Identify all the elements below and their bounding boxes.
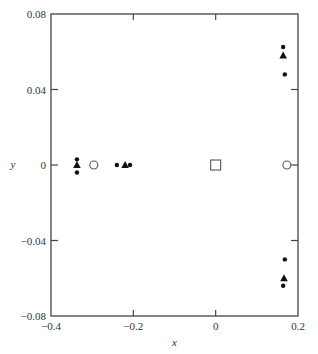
filled-triangle-marker <box>73 161 81 168</box>
x-tick-label: 0.2 <box>291 320 305 332</box>
x-tick-label: −0.2 <box>123 320 143 332</box>
filled-circle-marker <box>281 284 285 288</box>
open-circle-marker <box>283 161 291 169</box>
filled-circle-marker <box>128 163 132 167</box>
filled-circle-marker <box>75 170 79 174</box>
data-points <box>73 45 291 288</box>
filled-triangle-marker <box>279 52 287 59</box>
open-circle-marker <box>90 161 98 169</box>
filled-triangle-marker <box>280 274 288 281</box>
scatter-chart: −0.4−0.200.20.080.040−0.04−0.08 x y <box>0 0 318 354</box>
y-tick-label: 0.08 <box>27 8 47 20</box>
filled-circle-marker <box>115 163 119 167</box>
y-tick-label: −0.08 <box>21 310 47 322</box>
y-tick-label: 0.04 <box>27 84 47 96</box>
tick-labels: −0.4−0.200.20.080.040−0.04−0.08 <box>21 8 305 332</box>
y-tick-label: 0 <box>41 159 47 171</box>
axis-ticks <box>51 14 298 316</box>
filled-circle-marker <box>75 157 79 161</box>
filled-circle-marker <box>283 257 287 261</box>
x-axis-label: x <box>171 336 177 348</box>
x-tick-label: 0 <box>213 320 219 332</box>
filled-circle-marker <box>283 72 287 76</box>
filled-circle-marker <box>281 45 285 49</box>
plot-frame <box>51 14 298 316</box>
y-axis-label: y <box>10 158 16 170</box>
filled-triangle-marker <box>121 161 129 168</box>
y-tick-label: −0.04 <box>21 235 47 247</box>
open-square-marker <box>211 160 221 170</box>
